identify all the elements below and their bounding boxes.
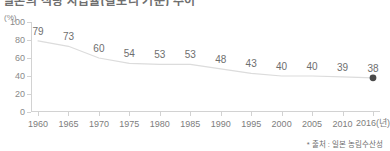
x-tick-mark	[38, 112, 39, 116]
data-point-label: 73	[63, 31, 74, 42]
data-point-label: 48	[215, 54, 226, 65]
y-tick-mark	[27, 112, 31, 113]
x-tick-label: 1970	[89, 119, 109, 129]
data-point-label: 60	[93, 43, 104, 54]
x-tick-mark	[343, 112, 344, 116]
x-tick-mark	[68, 112, 69, 116]
x-tick-label: 2000	[272, 119, 292, 129]
data-point-label: 53	[185, 49, 196, 60]
chart-title-clipped: 일본의 식량 자급률(칼로리 기준) 추이	[0, 0, 387, 6]
data-point-label: 40	[307, 61, 318, 72]
data-point-label: 54	[124, 48, 135, 59]
source-note: * 출처 : 일본 농림수산성	[307, 138, 383, 149]
y-tick-label: 60	[15, 53, 25, 63]
series-line	[31, 22, 380, 112]
y-tick-label: 40	[15, 71, 25, 81]
data-point-label: 40	[276, 61, 287, 72]
y-tick-label: 0	[20, 107, 25, 117]
x-tick-label: 1960	[28, 119, 48, 129]
x-tick-mark	[221, 112, 222, 116]
data-point-label: 38	[367, 63, 378, 74]
y-tick-label: 20	[15, 89, 25, 99]
x-tick-label: 2005	[302, 119, 322, 129]
x-tick-label: 2016(년)	[356, 116, 390, 129]
plot-area: 100806040200 196019651970197519801985199…	[31, 22, 380, 112]
data-point-label: 39	[337, 62, 348, 73]
x-tick-label: 2010	[333, 119, 353, 129]
y-tick-label: 80	[15, 35, 25, 45]
data-point-label: 79	[32, 26, 43, 37]
x-tick-mark	[129, 112, 130, 116]
x-tick-mark	[282, 112, 283, 116]
x-tick-label: 1975	[119, 119, 139, 129]
x-tick-mark	[190, 112, 191, 116]
x-tick-mark	[251, 112, 252, 116]
x-tick-mark	[160, 112, 161, 116]
x-tick-label: 1965	[58, 119, 78, 129]
x-tick-label: 1995	[241, 119, 261, 129]
data-point-label: 43	[246, 58, 257, 69]
x-tick-label: 1980	[150, 119, 170, 129]
data-point-label: 53	[154, 49, 165, 60]
y-tick-label: 100	[10, 17, 25, 27]
x-tick-mark	[99, 112, 100, 116]
chart-title-text: 일본의 식량 자급률(칼로리 기준) 추이	[3, 0, 196, 6]
x-tick-label: 1985	[180, 119, 200, 129]
x-tick-mark	[312, 112, 313, 116]
x-tick-label: 1990	[211, 119, 231, 129]
